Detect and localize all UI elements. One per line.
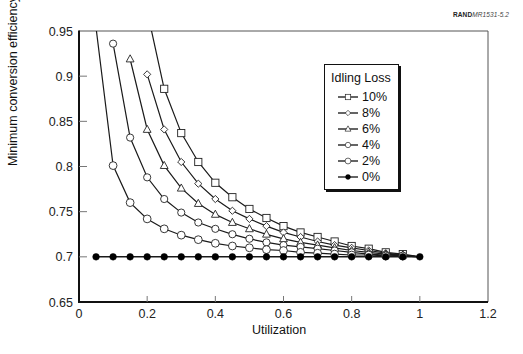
credit-org: RAND: [453, 11, 472, 18]
legend-entry-2: 2%: [337, 153, 380, 169]
filled-circle-marker-icon: [337, 171, 359, 183]
legend-label: 10%: [362, 90, 387, 104]
legend-label: 2%: [362, 154, 380, 168]
y-axis-label: Minimum conversion efficiency: [6, 0, 20, 166]
y-tick-label: 0.8: [56, 160, 73, 174]
diamond-marker-icon: [337, 107, 359, 119]
legend-entry-6: 6%: [337, 121, 380, 137]
y-tick-label: 0.65: [49, 296, 73, 310]
legend-label: 4%: [362, 138, 380, 152]
legend-title: Idling Loss: [331, 71, 391, 85]
square-marker-icon: [337, 91, 359, 103]
legend-entry-10: 10%: [337, 89, 387, 105]
circle-marker-icon: [337, 155, 359, 167]
y-tick-label: 0.95: [49, 25, 73, 39]
plot-frame: [78, 31, 488, 304]
x-tick-label: 0.6: [275, 307, 292, 321]
legend-entry-4: 4%: [337, 137, 380, 153]
legend-entry-8: 8%: [337, 105, 380, 121]
legend-label: 6%: [362, 122, 380, 136]
legend-entry-0: 0%: [337, 169, 380, 185]
chart-plot: 00.20.40.60.811.20.650.70.750.80.850.90.…: [0, 0, 523, 354]
x-axis-label-text: Utilization: [252, 323, 306, 337]
x-tick-label: 1: [416, 307, 423, 321]
credit-id: MR1531-5.2: [472, 11, 509, 18]
triangle-marker-icon: [337, 123, 359, 135]
circle-marker-icon: [337, 139, 359, 151]
y-tick-label: 0.7: [56, 250, 73, 264]
y-tick-label: 0.85: [49, 115, 73, 129]
y-tick-label: 0.9: [56, 70, 73, 84]
legend: Idling Loss 10% 8% 6% 4% 2% 0%: [324, 64, 399, 190]
x-tick-label: 0.2: [138, 307, 155, 321]
x-tick-label: 0: [76, 307, 83, 321]
y-tick-label: 0.75: [49, 205, 73, 219]
x-tick-label: 0.8: [343, 307, 360, 321]
x-tick-label: 0.4: [207, 307, 224, 321]
legend-label: 8%: [362, 106, 380, 120]
figure-credit: RANDMR1531-5.2: [453, 11, 509, 18]
x-tick-label: 1.2: [479, 307, 496, 321]
legend-label: 0%: [362, 170, 380, 184]
